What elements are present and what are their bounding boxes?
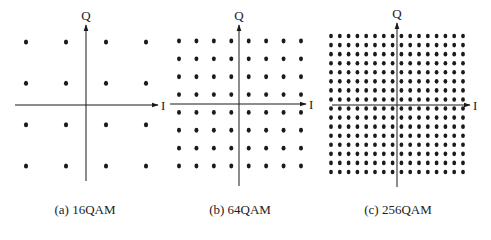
constellation-point (347, 170, 351, 175)
constellation-point (417, 61, 421, 66)
constellation-point (104, 39, 108, 44)
constellation-point (212, 74, 216, 79)
constellation-point (329, 142, 333, 147)
constellation-point (452, 152, 456, 157)
constellation-point (426, 70, 430, 75)
constellation-point (264, 128, 268, 133)
constellation-point (299, 92, 303, 97)
constellation-point (400, 152, 404, 157)
constellation-point (247, 74, 251, 79)
constellation-point (391, 43, 395, 48)
constellation-point (400, 170, 404, 175)
constellation-point (347, 52, 351, 57)
constellation-point (104, 122, 108, 127)
constellation-point (426, 115, 430, 120)
constellation-point (408, 152, 412, 157)
constellation-point (356, 43, 360, 48)
constellation-point (299, 74, 303, 79)
constellation-point (356, 152, 360, 157)
constellation-point (391, 170, 395, 175)
constellation-point (408, 142, 412, 147)
constellation-point (417, 43, 421, 48)
constellation-point (417, 106, 421, 111)
caption-a: (a) 16QAM (54, 202, 115, 218)
constellation-point (417, 52, 421, 57)
constellation-point (212, 146, 216, 151)
constellation-point (391, 70, 395, 75)
constellation-point (408, 70, 412, 75)
constellation-point (426, 142, 430, 147)
constellation-point (426, 161, 430, 166)
constellation-point (347, 115, 351, 120)
constellation-point (329, 61, 333, 66)
constellation-point (382, 115, 386, 120)
constellation-point (177, 56, 181, 61)
constellation-point (435, 106, 439, 111)
constellation-point (177, 39, 181, 44)
constellation-point (229, 56, 233, 61)
constellation-point (338, 79, 342, 84)
constellation-point (373, 88, 377, 93)
constellation-point (444, 70, 448, 75)
constellation-point (338, 106, 342, 111)
constellation-point (400, 79, 404, 84)
constellation-point (452, 133, 456, 138)
constellation-point (426, 61, 430, 66)
constellation-point (282, 39, 286, 44)
constellation-point (347, 133, 351, 138)
constellation-point (391, 142, 395, 147)
constellation-point (356, 61, 360, 66)
constellation-point (408, 61, 412, 66)
constellation-point (194, 146, 198, 151)
constellation-point (229, 39, 233, 44)
constellation-point (408, 79, 412, 84)
constellation-point (382, 61, 386, 66)
constellation-point (282, 74, 286, 79)
constellation-point (382, 133, 386, 138)
constellation-point (373, 133, 377, 138)
constellation-point (229, 146, 233, 151)
constellation-point (338, 161, 342, 166)
constellation-point (452, 106, 456, 111)
constellation-point (391, 152, 395, 157)
constellation-point (444, 52, 448, 57)
constellation-point (452, 142, 456, 147)
constellation-point (329, 52, 333, 57)
constellation-point (347, 152, 351, 157)
constellation-point (382, 106, 386, 111)
constellation-point (400, 70, 404, 75)
constellation-point (194, 56, 198, 61)
constellation-point (417, 70, 421, 75)
constellation-point (247, 164, 251, 169)
constellation-point (356, 161, 360, 166)
constellation-point (212, 110, 216, 115)
constellation-point (144, 163, 148, 168)
constellation-point (299, 164, 303, 169)
caption-b: (b) 64QAM (209, 202, 271, 218)
constellation-point (177, 164, 181, 169)
constellation-point (444, 79, 448, 84)
constellation-point (461, 115, 465, 120)
constellation-point (282, 146, 286, 151)
constellation-point (461, 161, 465, 166)
constellation-point (329, 43, 333, 48)
constellation-point (400, 97, 404, 102)
constellation-point (24, 122, 28, 127)
constellation-point (435, 97, 439, 102)
constellation-point (104, 163, 108, 168)
constellation-point (356, 142, 360, 147)
constellation-point (426, 52, 430, 57)
constellation-point (400, 124, 404, 129)
constellation-point (452, 97, 456, 102)
constellation-point (347, 106, 351, 111)
constellation-point (338, 152, 342, 157)
constellation-point (452, 34, 456, 39)
constellation-point (391, 106, 395, 111)
constellation-point (347, 43, 351, 48)
constellation-point (452, 79, 456, 84)
constellation-point (299, 110, 303, 115)
constellation-point (177, 92, 181, 97)
constellation-point (364, 97, 368, 102)
constellation-point (24, 81, 28, 86)
constellation-point (444, 88, 448, 93)
